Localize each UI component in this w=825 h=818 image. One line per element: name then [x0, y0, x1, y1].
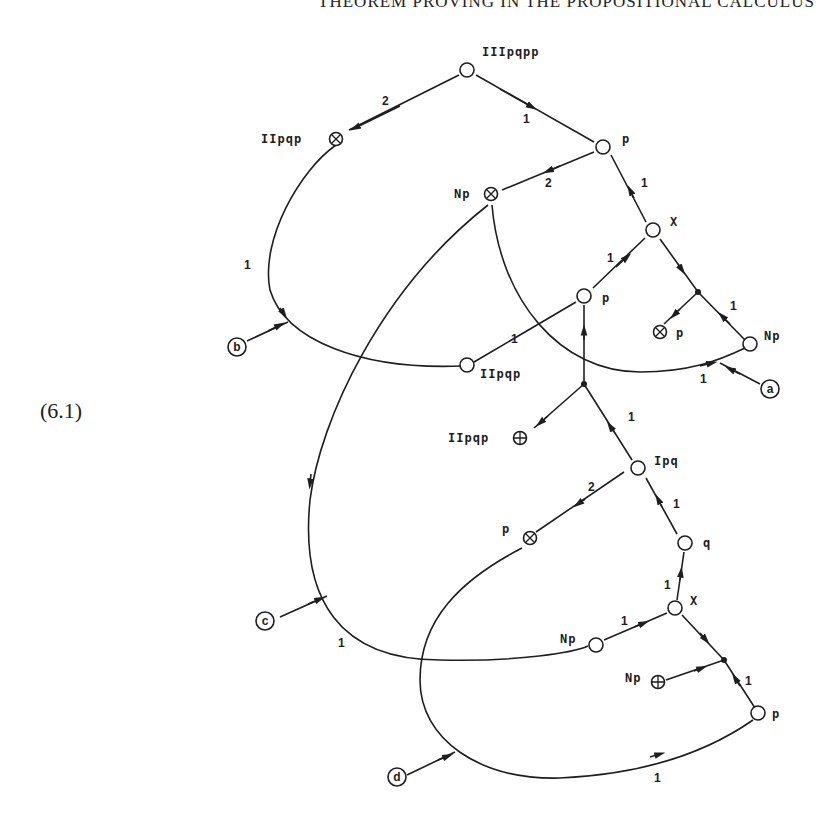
node-label: p	[502, 522, 510, 536]
entry-b-line	[247, 322, 288, 341]
edge-weight: 1	[664, 578, 671, 592]
node-label: IIpqp	[261, 132, 302, 146]
node-label: X	[670, 215, 678, 229]
node-plus-icon	[514, 432, 527, 445]
edge-weight: 1	[511, 332, 518, 346]
node-open	[631, 461, 645, 475]
node-label: Ipq	[654, 454, 679, 468]
node-label: p	[622, 132, 630, 146]
arrow-icon	[268, 325, 280, 331]
arrow-icon	[674, 309, 680, 315]
arrow-icon	[680, 572, 681, 580]
node-crossed-icon	[524, 532, 537, 545]
edge-n1-n2	[349, 75, 459, 130]
arrow-icon	[650, 754, 660, 757]
edge-weight: 1	[244, 258, 251, 272]
svg-text:a: a	[767, 382, 774, 396]
arrow-icon	[722, 316, 730, 324]
node-crossed-icon	[330, 133, 343, 146]
node-open	[751, 706, 765, 720]
node-open	[646, 223, 660, 237]
node-label: IIpqp	[480, 367, 521, 381]
edge-weight: 1	[607, 251, 614, 265]
edge-weight: 1	[654, 771, 661, 785]
entry-point-b-icon: b	[228, 338, 246, 356]
node-label: X	[690, 594, 698, 608]
edge-weight: 2	[588, 480, 595, 494]
edge-weight: 2	[382, 94, 389, 108]
arrow-icon	[730, 369, 740, 374]
arrow-icon	[310, 474, 311, 484]
arrow-icon	[678, 264, 682, 270]
edge-weight: 1	[673, 497, 680, 511]
node-label: Np	[625, 671, 641, 685]
node-open	[589, 638, 603, 652]
node-label: q	[703, 536, 711, 550]
node-label: p	[602, 291, 610, 305]
node-open	[668, 601, 682, 615]
proof-graph-diagram: IIIpqpp IIpqp p Np X p p Np IIpqp IIpqp …	[0, 0, 825, 818]
edge-weight: 1	[745, 674, 752, 688]
arrow-icon	[500, 89, 532, 107]
entry-d-line	[407, 752, 455, 775]
node-open	[460, 63, 474, 77]
arrow-icon	[308, 599, 320, 604]
node-label: Np	[560, 632, 576, 646]
edge-n1-n3	[476, 75, 594, 142]
arrow-icon	[355, 106, 400, 128]
arrow-icon	[438, 756, 448, 760]
edge-n11-j2	[584, 384, 632, 460]
curve-n4-n8	[492, 205, 745, 372]
edge-weight: 1	[338, 636, 345, 650]
arrow-icon	[658, 499, 662, 507]
arrow-icon	[634, 623, 644, 627]
curve-n12-n17	[420, 548, 753, 778]
node-open	[577, 289, 591, 303]
edge-weight: 1	[641, 176, 648, 190]
edge-weight: 1	[621, 614, 628, 628]
edge-weight: 1	[523, 112, 530, 126]
arrow-icon	[700, 633, 706, 640]
arrow-icon	[578, 499, 585, 504]
entry-point-a-icon: a	[761, 380, 779, 398]
entry-point-c-icon: c	[256, 612, 274, 630]
edge-weight: 1	[628, 410, 635, 424]
svg-text:b: b	[233, 340, 240, 354]
node-plus-icon	[652, 676, 665, 689]
edge-weight: 1	[700, 372, 707, 386]
edge-n5-n6	[593, 238, 645, 288]
arrow-icon	[548, 166, 560, 171]
edge-weight: 1	[730, 299, 737, 313]
node-label: IIIpqpp	[482, 45, 540, 59]
node-label: IIpqp	[448, 431, 489, 445]
svg-text:c: c	[262, 614, 269, 628]
edge-n9-n6	[474, 302, 576, 362]
node-label: Np	[764, 329, 780, 343]
node-label: p	[772, 707, 780, 721]
node-open	[743, 337, 757, 351]
arrow-icon	[540, 416, 548, 423]
node-open	[596, 140, 610, 154]
node-open	[678, 536, 692, 550]
entry-point-d-icon: d	[388, 768, 406, 786]
arrow-icon	[735, 678, 740, 686]
node-label: Np	[454, 187, 470, 201]
edge-n5-n8	[660, 239, 745, 340]
node-crossed-icon	[485, 188, 498, 201]
node-label: p	[676, 326, 684, 340]
node-open	[460, 358, 474, 372]
edge-weight: 2	[545, 176, 552, 190]
node-crossed-icon	[654, 326, 667, 339]
arrow-icon	[616, 257, 627, 267]
edge-j1-n7	[664, 292, 698, 324]
svg-text:d: d	[393, 770, 400, 784]
